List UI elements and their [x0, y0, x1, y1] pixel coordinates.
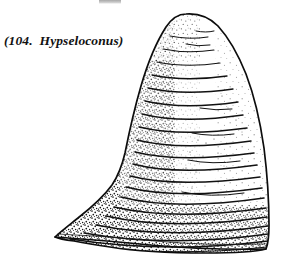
shell-shading	[40, 10, 275, 255]
figure-page: (104. Hypseloconus)	[0, 0, 286, 272]
hypseloconus-shell-illustration	[0, 0, 286, 272]
